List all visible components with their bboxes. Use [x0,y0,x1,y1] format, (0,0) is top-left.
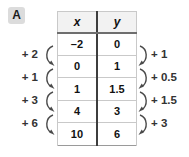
cell-y: 0 [97,33,137,56]
cell-y: 6 [97,123,137,146]
column-header-y: y [97,12,137,33]
cell-x: –2 [58,33,97,56]
left-difference-label-1: + 2 [8,49,38,61]
right-difference-label-4: + 3 [151,118,167,130]
cell-x: 10 [58,123,97,146]
cell-y: 1.5 [97,78,137,101]
right-difference-label-3: + 1.5 [151,95,177,107]
cell-x: 0 [58,55,97,78]
column-header-x: x [58,12,97,33]
part-label-badge: A [8,7,25,24]
table-row: 4 3 [58,100,137,123]
left-difference-label-4: + 6 [8,118,38,130]
xy-value-table: x y –2 0 0 1 1 1.5 4 3 10 6 [57,11,137,146]
right-difference-label-1: + 1 [151,49,167,61]
cell-y: 3 [97,100,137,123]
cell-x: 4 [58,100,97,123]
table-row: 1 1.5 [58,78,137,101]
table-row: 0 1 [58,55,137,78]
cell-x: 1 [58,78,97,101]
right-curved-arrow-4 [137,112,151,138]
table-row: –2 0 [58,33,137,56]
right-difference-label-2: + 0.5 [151,72,177,84]
left-difference-label-2: + 1 [8,72,38,84]
left-difference-label-3: + 3 [8,95,38,107]
table-header-row: x y [58,12,137,33]
left-curved-arrow-4 [42,112,56,138]
cell-y: 1 [97,55,137,78]
table-row: 10 6 [58,123,137,146]
